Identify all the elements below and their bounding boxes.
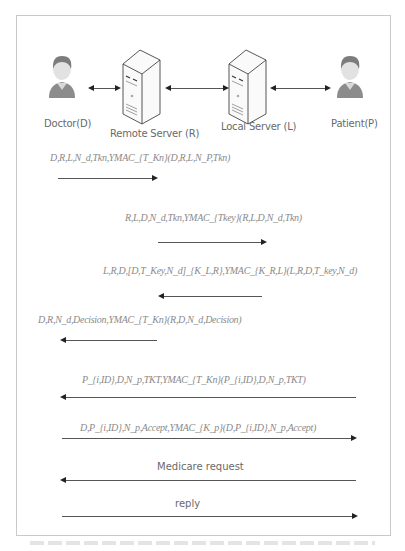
message-2-label: R,L,D,N_d,Tkn,YMAC_{Tkey}(R,L,D,N_d,Tkn)	[125, 212, 302, 223]
local-server-label: Local Server (L)	[221, 121, 296, 132]
person-icon	[44, 50, 80, 100]
message-1-label: D,R,L,N_d,Tkn,YMAC_{T_Kn}(D,R,L,N_P,Tkn)	[50, 152, 230, 163]
message-5-label: P_{i,ID},D,N_p,TKT,YMAC_{T_Kn}(P_{i,ID},…	[82, 374, 306, 385]
cropped-caption	[30, 541, 375, 545]
message-6-label: D,P_{i,ID},N_p,Accept,YMAC_{K_p}(D,P_{i,…	[80, 422, 316, 433]
doctor-node	[44, 50, 80, 100]
patient-node	[332, 50, 368, 100]
remote-server-label: Remote Server (R)	[110, 128, 199, 139]
message-3-label: L,R,D,[D,T_Key,N_d]_{K_L,R},YMAC_{K_R,L}…	[103, 265, 357, 276]
patient-label: Patient(P)	[331, 118, 378, 129]
doctor-label: Doctor(D)	[44, 118, 91, 129]
local-server-node	[226, 46, 270, 126]
remote-server-node	[120, 46, 164, 126]
person-icon	[332, 50, 368, 100]
message-4-label: D,R,N_d,Decision,YMAC_{T_Kn}(R,D,N_d,Dec…	[38, 314, 241, 325]
server-icon	[120, 46, 164, 126]
server-icon	[226, 46, 270, 126]
message-7-label: Medicare request	[157, 461, 244, 472]
message-8-label: reply	[175, 498, 200, 509]
